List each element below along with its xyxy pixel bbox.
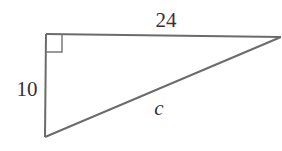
left-side [45,34,46,137]
top-side [46,34,281,37]
right-angle-marker [46,34,62,52]
hypotenuse-label: c [154,96,164,120]
left-side-label: 10 [17,77,38,101]
hypotenuse [45,37,281,137]
triangle [45,34,281,137]
right-triangle-diagram: 24 10 c [0,0,282,151]
top-side-label: 24 [156,8,178,32]
